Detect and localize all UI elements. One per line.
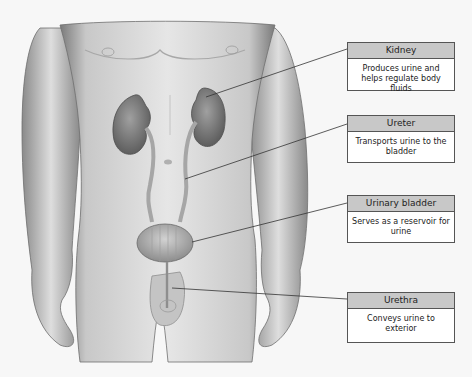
- label-box-urethra: Urethra Conveys urine to exterior: [347, 292, 455, 343]
- label-box-ureter: Ureter Transports urine to the bladder: [347, 115, 455, 163]
- label-description-ureter: Transports urine to the bladder: [348, 132, 454, 163]
- label-title-ureter: Ureter: [348, 116, 454, 132]
- label-title-kidney: Kidney: [348, 43, 454, 59]
- label-title-urethra: Urethra: [348, 293, 454, 309]
- label-description-kidney: Produces urine and helps regulate body f…: [348, 59, 454, 100]
- left-arm: [22, 28, 80, 347]
- label-box-bladder: Urinary bladder Serves as a reservoir fo…: [347, 195, 455, 243]
- label-box-kidney: Kidney Produces urine and helps regulate…: [347, 42, 455, 91]
- label-title-bladder: Urinary bladder: [348, 196, 454, 212]
- label-description-bladder: Serves as a reservoir for urine: [348, 212, 454, 243]
- urinary-bladder: [137, 224, 193, 262]
- label-description-urethra: Conveys urine to exterior: [348, 309, 454, 340]
